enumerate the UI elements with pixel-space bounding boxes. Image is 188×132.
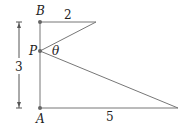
arrow-down-icon: [17, 102, 21, 107]
label-p: P: [28, 44, 38, 58]
label-b: B: [35, 4, 45, 18]
label-height: 3: [15, 60, 23, 74]
lower-diagonal: [40, 51, 178, 108]
label-top-length: 2: [64, 8, 72, 22]
label-a: A: [35, 112, 45, 126]
arrow-up-icon: [17, 23, 21, 28]
upper-diagonal: [40, 22, 96, 51]
geometry-diagram: B 2 P θ 3 A 5: [0, 0, 188, 132]
point-b: [38, 20, 42, 24]
label-theta: θ: [52, 44, 60, 58]
point-p: [38, 49, 42, 53]
point-a: [38, 106, 42, 110]
label-bottom-length: 5: [106, 110, 114, 124]
